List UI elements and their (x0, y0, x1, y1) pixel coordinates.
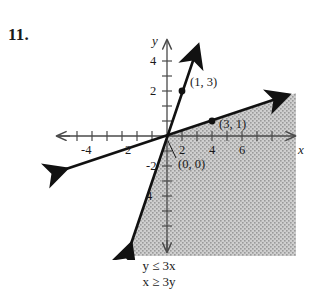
point-label-3-1: (3, 1) (219, 118, 246, 131)
graph-svg (0, 0, 318, 260)
y-tick-label-neg2: -2 (146, 160, 156, 173)
x-tick-label-neg2: 2 (125, 144, 131, 157)
inequality-caption: y ≤ 3x x ≥ 3y (0, 258, 318, 290)
x-axis-label: x (298, 143, 304, 156)
point-3-1 (209, 118, 216, 125)
inequality-line-1: y ≤ 3x (0, 258, 318, 274)
point-1-3 (179, 88, 186, 95)
y-tick-label-2: 2 (150, 85, 156, 98)
x-tick-label-4: 4 (209, 144, 215, 157)
point-label-1-3: (1, 3) (190, 76, 217, 89)
shaded-solution-region (127, 93, 296, 256)
x-tick-label-neg4: -4 (81, 144, 91, 157)
x-tick-label-2: 2 (179, 144, 185, 157)
coordinate-plane: y x -4 2 2 4 6 4 2 -2 4 (1, 3) (3, 1) (0… (0, 0, 318, 260)
y-axis-label: y (152, 34, 158, 47)
x-tick-label-6: 6 (239, 144, 245, 157)
inequality-line-2: x ≥ 3y (0, 274, 318, 290)
y-tick-label-neg4: 4 (146, 190, 152, 203)
exercise-figure: 11. (0, 0, 318, 308)
y-tick-label-4: 4 (150, 55, 156, 68)
point-label-origin: (0, 0) (178, 158, 205, 171)
